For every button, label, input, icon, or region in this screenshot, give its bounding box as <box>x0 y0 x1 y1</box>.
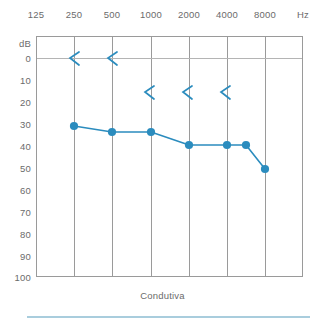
bone-conduction-marker <box>70 52 79 65</box>
bone-conduction-marker <box>145 86 154 99</box>
chart-caption: Condutiva <box>0 290 325 301</box>
air-conduction-point <box>185 141 193 149</box>
data-overlay <box>0 0 325 323</box>
air-conduction-point <box>261 165 269 173</box>
air-conduction-point <box>108 128 116 136</box>
air-conduction-point <box>242 141 250 149</box>
audiogram-chart: 125 250 500 1000 2000 4000 8000 Hz dB 0 … <box>0 0 325 323</box>
air-conduction-point <box>147 128 155 136</box>
air-conduction-point <box>223 141 231 149</box>
bottom-divider <box>27 316 310 318</box>
air-conduction-line <box>74 126 265 169</box>
air-conduction-point <box>70 122 78 130</box>
bone-conduction-marker <box>183 86 192 99</box>
bone-conduction-marker <box>221 86 230 99</box>
bone-conduction-marker <box>108 52 117 65</box>
